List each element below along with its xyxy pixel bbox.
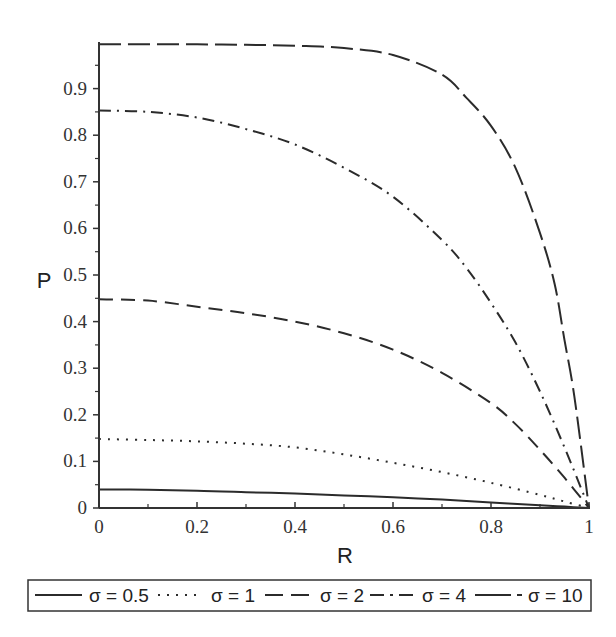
y-tick-label: 0.1 [63, 450, 87, 471]
legend-label: σ = 0.5 [89, 585, 149, 606]
y-tick-label: 0.3 [63, 357, 87, 378]
x-tick-label: 0.8 [479, 516, 503, 537]
y-tick-label: 0.5 [63, 264, 87, 285]
y-tick-label: 0.9 [63, 78, 87, 99]
curve-series-2 [99, 439, 589, 508]
legend-label: σ = 2 [320, 585, 364, 606]
x-tick-label: 0.2 [185, 516, 209, 537]
x-axis-title: R [337, 543, 353, 568]
curve-series-5 [99, 44, 589, 508]
y-tick-label: 0.8 [63, 124, 87, 145]
x-tick-label: 1 [584, 516, 594, 537]
curves-group [99, 44, 589, 508]
y-axis-ticks: 00.10.20.30.40.50.60.70.80.9 [63, 65, 99, 518]
y-tick-label: 0 [78, 497, 88, 518]
legend: σ = 0.5 σ = 1 σ = 2 σ = 4 σ = 10 [28, 580, 591, 611]
y-tick-label: 0.6 [63, 217, 87, 238]
x-tick-label: 0.6 [381, 516, 405, 537]
line-chart: 00.20.40.60.81 00.10.20.30.40.50.60.70.8… [0, 0, 616, 637]
legend-label: σ = 1 [211, 585, 255, 606]
x-tick-label: 0 [94, 516, 104, 537]
y-axis-title: P [37, 268, 52, 293]
plot-area: 00.20.40.60.81 00.10.20.30.40.50.60.70.8… [63, 42, 594, 537]
y-tick-label: 0.4 [63, 311, 87, 332]
curve-series-3 [99, 299, 589, 508]
legend-label: σ = 10 [528, 585, 583, 606]
legend-label: σ = 4 [422, 585, 466, 606]
y-tick-label: 0.7 [63, 171, 87, 192]
x-tick-label: 0.4 [283, 516, 307, 537]
y-tick-label: 0.2 [63, 404, 87, 425]
